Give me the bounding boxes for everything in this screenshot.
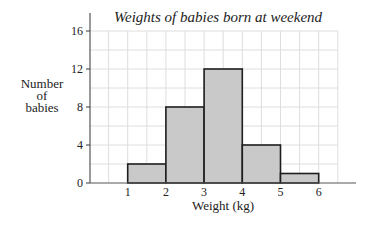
x-tick-label: 5 [278, 185, 284, 199]
histogram-chart: 0481216 123456 Weights of babies born at… [0, 0, 375, 227]
y-tick-label: 0 [77, 176, 83, 190]
chart-title: Weights of babies born at weekend [114, 9, 323, 25]
histogram-bar [242, 145, 280, 183]
histogram-bar [204, 69, 242, 183]
x-axis-label: Weight (kg) [192, 198, 254, 213]
y-tick-label: 12 [71, 62, 83, 76]
x-tick-label: 3 [201, 185, 207, 199]
y-axis-label: Number of babies [21, 76, 64, 115]
x-tick-label: 2 [163, 185, 169, 199]
y-tick-label: 16 [71, 24, 83, 38]
x-tick-label: 1 [125, 185, 131, 199]
x-tick-label: 4 [239, 185, 245, 199]
histogram-bar [128, 164, 166, 183]
x-tick-labels: 123456 [125, 185, 322, 199]
histogram-bar [281, 174, 319, 184]
x-tick-label: 6 [316, 185, 322, 199]
histogram-bar [166, 107, 204, 183]
y-tick-labels: 0481216 [71, 24, 90, 190]
y-tick-label: 8 [77, 100, 83, 114]
y-tick-label: 4 [77, 138, 83, 152]
y-axis-label-line-3: babies [25, 100, 58, 115]
